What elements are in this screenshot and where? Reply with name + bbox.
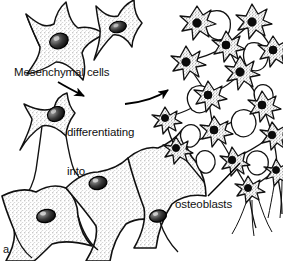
label-differentiating-line2: into: [67, 165, 134, 178]
cell-differentiation-illustration: [0, 0, 283, 261]
label-differentiating-into: differentiating into: [67, 100, 134, 204]
label-mesenchymal-cells: Mesenchymal cells: [14, 66, 109, 79]
panel-letter: a: [3, 243, 9, 256]
label-osteoblasts: osteoblasts: [175, 198, 232, 211]
figure-panel: Mesenchymal cells differentiating into o…: [0, 0, 283, 261]
label-differentiating-line1: differentiating: [67, 126, 134, 139]
